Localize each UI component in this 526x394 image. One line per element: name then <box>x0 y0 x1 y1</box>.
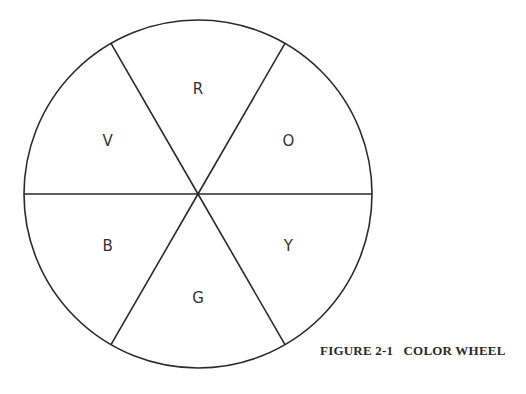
figure-caption: FIGURE 2-1 COLOR WHEEL <box>320 343 506 359</box>
segment-label-red: R <box>193 80 203 98</box>
segment-divider <box>198 194 285 345</box>
segment-label-orange: O <box>283 132 295 150</box>
segment-label-blue: B <box>102 237 112 255</box>
segment-label-green: G <box>192 289 204 307</box>
segment-divider <box>198 43 285 194</box>
segment-divider <box>111 43 198 194</box>
segment-label-yellow: Y <box>283 237 294 255</box>
segment-divider <box>111 194 198 345</box>
segment-label-violet: V <box>102 132 113 150</box>
color-wheel: ROYGBV <box>0 0 526 394</box>
